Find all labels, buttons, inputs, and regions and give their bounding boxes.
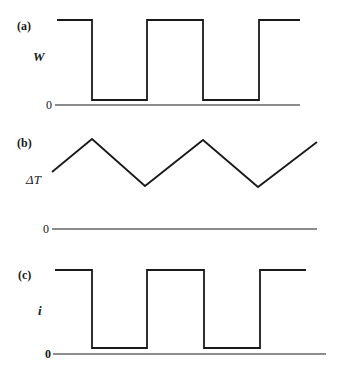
panel-c-waveform [55,270,306,348]
panel-a-axis-label: W [33,50,45,63]
panel-a-label: (a) [17,20,31,32]
panel-a-waveform [57,20,300,100]
waveform-figure [0,0,339,367]
panel-b [52,139,317,229]
panel-b-axis-label: ΔT [26,173,41,186]
panel-c-zero-label: 0 [45,348,51,360]
panel-a [55,20,300,105]
panel-c-label: (c) [18,269,31,281]
panel-b-label: (b) [17,137,32,149]
panel-c-axis-label: i [38,304,42,317]
panel-b-waveform [52,139,317,187]
panel-b-zero-label: 0 [43,223,49,235]
panel-c [53,270,326,354]
panel-a-zero-label: 0 [46,99,52,111]
